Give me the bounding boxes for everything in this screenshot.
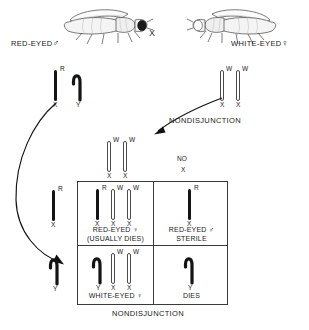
offspring-cell-bottom-right: Y DIES: [154, 246, 229, 309]
allele-label-w-2: W: [242, 66, 248, 73]
chromosome-x-w-1: [111, 253, 115, 284]
nondisjunction-label-bottom: NONDISJUNCTION: [112, 309, 184, 318]
chromosome-base-label-x-1: X: [111, 285, 115, 292]
egg-gamete-no-x-line2: X: [181, 166, 185, 173]
chromosome-x-w-2: [127, 253, 131, 284]
egg-gamete-xx: W X W X: [104, 137, 144, 181]
chromosome-base-label-y: Y: [188, 285, 192, 292]
allele-label-w-1: W: [117, 249, 123, 256]
offspring-karyotype: R X: [154, 186, 229, 223]
chromosome-base-label-y: Y: [96, 285, 100, 292]
chromosome-x-w-egg-2: [123, 141, 127, 172]
chromosome-x-r: [96, 189, 99, 220]
chromosome-y: [72, 70, 84, 101]
cross-symbol: X: [149, 28, 155, 38]
chromosome-x-r: [54, 70, 57, 101]
male-parent-label: RED-EYED♂: [11, 38, 60, 48]
chromosome-base-label-y-sperm: Y: [53, 286, 57, 293]
sperm-gamete-x-r: R X: [46, 186, 74, 230]
allele-label-r: R: [60, 66, 65, 73]
offspring-caption-line1: DIES: [154, 292, 229, 299]
chromosome-y: [92, 253, 104, 284]
chromosome-x-r: [188, 189, 191, 220]
allele-label-w-1: W: [226, 66, 232, 73]
egg-gamete-no-x-line1: NO: [177, 155, 187, 162]
punnett-square: R X W X W X RED-EYED ♀ (USUALLY DIES) R …: [77, 181, 228, 305]
offspring-karyotype: Y: [154, 250, 229, 287]
offspring-cell-top-right: R X RED-EYED ♂ STERILE: [154, 182, 229, 245]
chromosome-y: [184, 253, 196, 284]
allele-label-r: R: [194, 185, 199, 192]
offspring-caption-line1: WHITE-EYED ♀: [78, 292, 153, 299]
offspring-caption-line1: RED-EYED ♂: [154, 226, 229, 233]
allele-label-w-1: W: [117, 185, 123, 192]
offspring-karyotype: Y W X W X: [78, 250, 153, 287]
offspring-cell-bottom-left: Y W X W X WHITE-EYED ♀: [78, 246, 153, 309]
female-parent-label: WHITE-EYED♀: [231, 38, 289, 48]
chromosome-base-label-x-egg-2: X: [123, 173, 127, 180]
allele-label-w-2: W: [133, 249, 139, 256]
male-fly-illustration: [62, 4, 154, 46]
chromosome-x-w-2: [236, 70, 240, 101]
chromosome-x-w-egg-1: [107, 141, 111, 172]
allele-label-w-egg-2: W: [129, 137, 135, 144]
allele-label-r: R: [102, 185, 107, 192]
chromosome-base-label-x-2: X: [236, 102, 240, 109]
allele-label-w-egg-1: W: [113, 137, 119, 144]
chromosome-x-w-2: [127, 189, 131, 220]
offspring-cell-top-left: R X W X W X RED-EYED ♀ (USUALLY DIES): [78, 182, 153, 245]
chromosome-base-label-x-sperm: X: [51, 222, 55, 229]
chromosome-base-label-x-egg-1: X: [107, 173, 111, 180]
allele-label-r-sperm: R: [58, 186, 63, 193]
offspring-karyotype: R X W X W X: [78, 186, 153, 223]
chromosome-x-w-1: [111, 189, 115, 220]
chromosome-x-r-sperm: [52, 190, 55, 221]
chromosome-y-sperm: [49, 254, 61, 285]
offspring-caption-line2: (USUALLY DIES): [78, 235, 153, 242]
sperm-gamete-y: Y: [46, 250, 74, 294]
offspring-caption-line2: STERILE: [154, 235, 229, 242]
allele-label-w-2: W: [133, 185, 139, 192]
nondisjunction-label-top: NONDISJUNCTION: [169, 116, 241, 125]
chromosome-base-label-x-2: X: [127, 285, 131, 292]
offspring-caption-line1: RED-EYED ♀: [78, 226, 153, 233]
